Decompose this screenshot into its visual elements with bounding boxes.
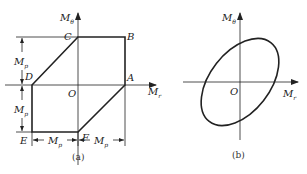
- point-e-label: E: [19, 135, 28, 146]
- a-x-axis-label: Mr: [147, 86, 162, 99]
- point-d-label: D: [24, 71, 33, 82]
- point-f-label: F: [81, 132, 90, 143]
- b-y-axis-label: Mθ: [221, 12, 236, 25]
- dim-mp-lower: Mp: [13, 104, 28, 118]
- b-origin-label: O: [230, 86, 238, 97]
- point-c-label: C: [64, 31, 72, 42]
- dim-mp-upper: Mp: [13, 56, 28, 70]
- point-a-label: A: [126, 72, 134, 83]
- caption-a: (a): [72, 152, 84, 162]
- dim-mp-left: Mp: [47, 135, 62, 149]
- diagram: Mθ Mr O C B A D E F Mp Mp Mp Mp (a) Mθ M…: [0, 0, 307, 174]
- b-x-axis-label: Mr: [282, 88, 297, 101]
- yield-hexagon: [32, 37, 125, 132]
- point-b-label: B: [126, 31, 134, 42]
- panel-b: Mθ Mr O (b): [183, 12, 298, 160]
- dim-mp-right: Mp: [93, 135, 108, 149]
- a-y-axis-label: Mθ: [59, 12, 74, 25]
- caption-b: (b): [232, 150, 245, 160]
- panel-a: Mθ Mr O C B A D E F Mp Mp Mp Mp (a): [5, 12, 162, 165]
- a-origin-label: O: [68, 88, 76, 99]
